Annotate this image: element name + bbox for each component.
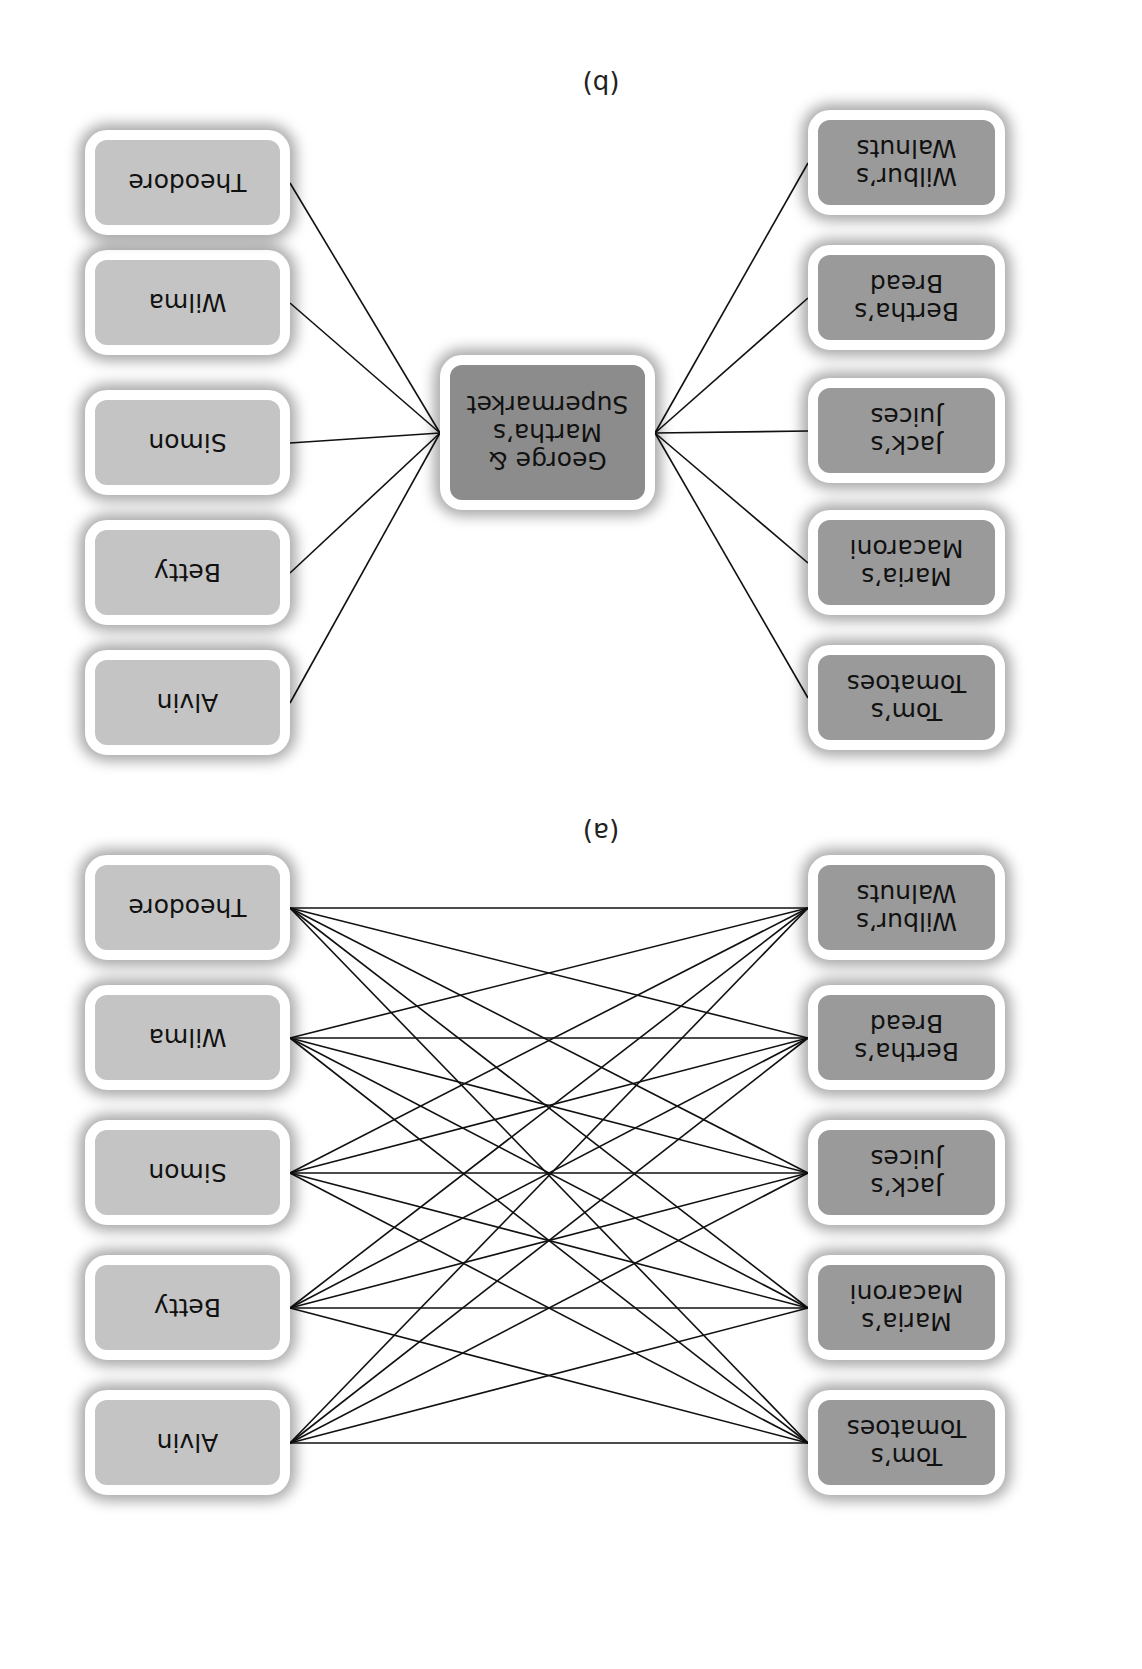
panel-a-customer-betty: Betty (85, 1255, 290, 1360)
customer-label: Alvin (157, 689, 219, 717)
panel-b-supplier-bertha: Bertha’s Bread (808, 245, 1005, 350)
customer-label: Theodore (128, 169, 246, 197)
panel-a-customer-alvin: Alvin (85, 1390, 290, 1495)
panel-a-supplier-bertha: Bertha’s Bread (808, 985, 1005, 1090)
panel-b-supplier-tom: Tom’s Tomatoes (808, 645, 1005, 750)
panel-a-supplier-jack: Jack’s Juices (808, 1120, 1005, 1225)
panel-b-customer-wilma: Wilma (85, 250, 290, 355)
panel-a-supplier-tom: Tom’s Tomatoes (808, 1390, 1005, 1495)
customer-label: Betty (154, 1294, 221, 1322)
supplier-label: Tom’s Tomatoes (847, 670, 967, 726)
panel-a-label: (a) (571, 817, 631, 847)
panel-a-supplier-wilbur: Wilbur’s Walnuts (808, 855, 1005, 960)
panel-b-supermarket: George & Martha’s Supermarket (440, 355, 655, 510)
supplier-label: Jack’s Juices (870, 403, 942, 459)
panel-b-supplier-wilbur: Wilbur’s Walnuts (808, 110, 1005, 215)
panel-b-customer-betty: Betty (85, 520, 290, 625)
supplier-label: Tom’s Tomatoes (847, 1415, 967, 1471)
panel-b-customer-simon: Simon (85, 390, 290, 495)
panel-a-supplier-maria: Maria’s Macaroni (808, 1255, 1005, 1360)
supplier-label: Bertha’s Bread (854, 270, 959, 326)
panel-a-customer-simon: Simon (85, 1120, 290, 1225)
panel-b-supplier-maria: Maria’s Macaroni (808, 510, 1005, 615)
supermarket-label: George & Martha’s Supermarket (467, 391, 629, 475)
supplier-label: Maria’s Macaroni (850, 1280, 964, 1336)
supplier-label: Bertha’s Bread (854, 1010, 959, 1066)
supplier-label: Wilbur’s Walnuts (856, 135, 957, 191)
panel-a-customer-theodore: Theodore (85, 855, 290, 960)
panel-b-customer-theodore: Theodore (85, 130, 290, 235)
panel-b-customer-alvin: Alvin (85, 650, 290, 755)
panel-a-customer-wilma: Wilma (85, 985, 290, 1090)
customer-label: Betty (154, 559, 221, 587)
supplier-label: Jack’s Juices (870, 1145, 942, 1201)
panel-b-label: (b) (571, 69, 631, 99)
supplier-label: Wilbur’s Walnuts (856, 880, 957, 936)
panel-b-supplier-jack: Jack’s Juices (808, 378, 1005, 483)
customer-label: Theodore (128, 894, 246, 922)
customer-label: Simon (148, 1159, 226, 1187)
customer-label: Simon (148, 429, 226, 457)
customer-label: Wilma (149, 1024, 227, 1052)
supplier-label: Maria’s Macaroni (850, 535, 964, 591)
network-diagram-figure: (a) Tom’s Tomatoes Maria’s Macaroni Jack… (0, 0, 1142, 1669)
customer-label: Alvin (157, 1429, 219, 1457)
customer-label: Wilma (149, 289, 227, 317)
